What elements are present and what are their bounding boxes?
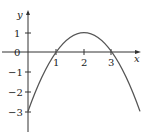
chart: 1 2 3 x 1 0 −1 −2 −3 y	[0, 0, 153, 140]
y-tick-label-m1: −1	[8, 67, 23, 78]
y-tick-label-0: 0	[14, 47, 20, 58]
y-axis-arrow-icon	[26, 10, 30, 15]
x-tick-label-3: 3	[108, 57, 114, 68]
y-tick-label-1: 1	[14, 28, 20, 39]
x-tick-label-1: 1	[53, 57, 59, 68]
x-tick-label-2: 2	[81, 57, 87, 68]
y-tick-label-m3: −3	[8, 107, 23, 118]
y-tick-label-m2: −2	[8, 87, 23, 98]
y-axis-label: y	[16, 9, 23, 20]
x-axis-label: x	[134, 53, 140, 64]
parabola-curve	[28, 33, 140, 112]
